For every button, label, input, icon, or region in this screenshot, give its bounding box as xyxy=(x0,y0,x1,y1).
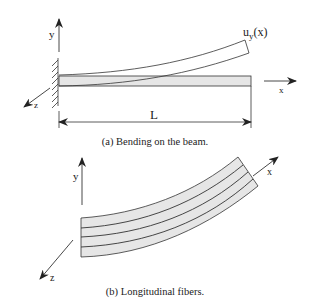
x-axis-label: x xyxy=(279,85,284,95)
deflection-label: uy(x) xyxy=(243,25,268,41)
z-axis-label: z xyxy=(34,100,38,110)
x-axis-arrow-b xyxy=(253,157,278,176)
y-axis-label-b: y xyxy=(73,170,79,182)
curved-beam xyxy=(81,157,258,257)
x-axis-label-b: x xyxy=(267,166,272,177)
caption-b: (b) Longitudinal fibers. xyxy=(106,286,204,298)
fixed-wall-hatching xyxy=(52,58,58,108)
figure-a-bending: y uy(x) x z xyxy=(24,19,296,148)
figure-b-fibers: y z x (b) Longitudinal fibers. xyxy=(40,157,278,298)
caption-a: (a) Bending on the beam. xyxy=(102,136,208,148)
z-axis-label-b: z xyxy=(50,272,55,283)
length-label: L xyxy=(150,107,158,122)
z-axis-arrow-b xyxy=(40,240,73,279)
beam-bending-diagram: y uy(x) x z xyxy=(0,0,310,307)
y-axis-label: y xyxy=(49,28,55,40)
